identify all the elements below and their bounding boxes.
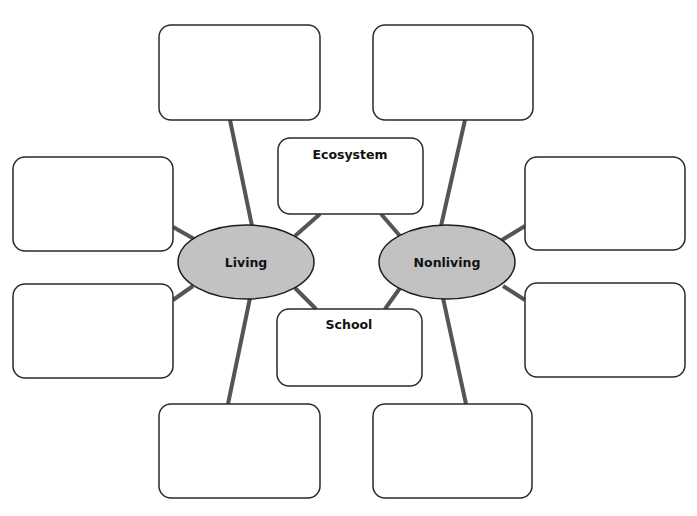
- shared-box-ecosystem[interactable]: Ecosystem: [278, 138, 423, 214]
- ecosystem-label: Ecosystem: [312, 147, 387, 162]
- nonliving-label: Nonliving: [414, 255, 481, 270]
- connector-living-bottom: [228, 298, 250, 404]
- nonliving-box-right-upper[interactable]: [525, 157, 685, 250]
- living-box-top[interactable]: [159, 25, 320, 120]
- living-box-bottom[interactable]: [159, 404, 320, 498]
- connector-nonliving-right-upper: [502, 226, 525, 240]
- living-box-left-upper[interactable]: [13, 157, 173, 251]
- hub-living[interactable]: Living: [178, 225, 314, 299]
- connector-nonliving-school: [385, 288, 400, 309]
- connector-nonliving-ecosystem: [381, 214, 400, 236]
- connector-living-top: [230, 120, 252, 226]
- double-bubble-map: Ecosystem School Living Nonliving: [0, 0, 697, 516]
- connector-nonliving-top: [441, 120, 465, 226]
- living-box-left-lower[interactable]: [13, 284, 173, 378]
- nonliving-box-bottom[interactable]: [373, 404, 532, 498]
- school-label: School: [326, 317, 373, 332]
- nonliving-box-top[interactable]: [373, 25, 533, 120]
- connector-living-ecosystem: [295, 214, 320, 236]
- living-label: Living: [225, 255, 268, 270]
- connector-living-school: [295, 288, 316, 309]
- connector-living-left-upper: [173, 227, 196, 240]
- shared-box-school[interactable]: School: [277, 309, 422, 386]
- connector-nonliving-bottom: [443, 298, 466, 404]
- nonliving-box-right-lower[interactable]: [525, 283, 685, 377]
- connector-nonliving-right-lower: [503, 286, 525, 300]
- hub-nonliving[interactable]: Nonliving: [379, 225, 515, 299]
- connector-living-left-lower: [173, 286, 193, 300]
